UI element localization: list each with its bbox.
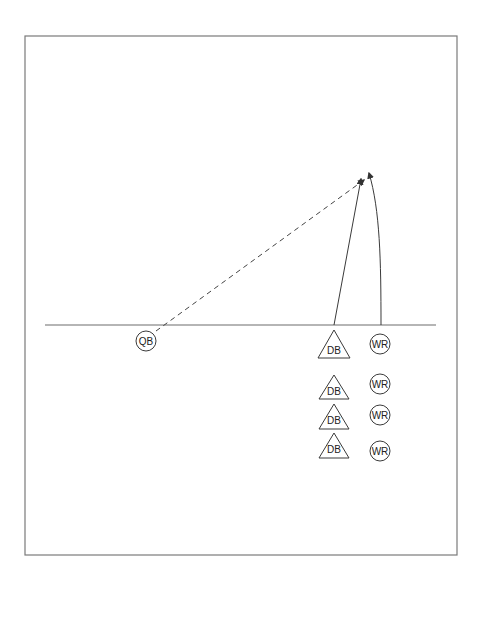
qb-label: QB (139, 336, 154, 347)
db-label: DB (327, 415, 341, 426)
player-db-3: DB (319, 404, 349, 429)
player-db-1: DB (318, 330, 350, 358)
wr-route-arrow (369, 173, 381, 325)
player-db-2: DB (319, 375, 349, 399)
play-diagram: QB DB DB DB DB WR WR WR WR (0, 0, 482, 644)
pass-route-arrow (156, 180, 364, 331)
db-label: DB (327, 345, 341, 356)
player-wr-4: WR (370, 441, 390, 461)
wr-label: WR (372, 410, 389, 421)
db-label: DB (327, 444, 341, 455)
player-wr-1: WR (370, 334, 390, 354)
wr-label: WR (372, 379, 389, 390)
field-frame (25, 36, 457, 555)
wr-label: WR (372, 339, 389, 350)
player-qb: QB (136, 331, 156, 351)
player-wr-2: WR (370, 374, 390, 394)
wr-label: WR (372, 446, 389, 457)
db-label: DB (327, 386, 341, 397)
player-db-4: DB (319, 433, 349, 458)
db-route-arrow (334, 179, 361, 325)
player-wr-3: WR (370, 405, 390, 425)
